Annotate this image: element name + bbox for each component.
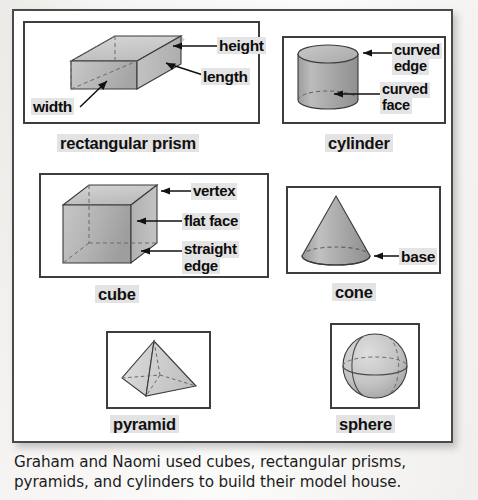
caption-paragraph-line1: Graham and Naomi used cubes, rectangular… (14, 452, 464, 472)
caption-sphere: sphere (336, 415, 395, 433)
shapes-reference-panel: height length width rectangular prism (12, 9, 453, 443)
sphere-shape (332, 325, 418, 407)
figure-box-sphere (330, 323, 420, 409)
label-straight-edge-line1: straight (182, 241, 239, 258)
pyramid-shape (108, 333, 209, 407)
label-length: length (201, 68, 250, 85)
label-curved-edge-line2: edge (392, 59, 429, 75)
label-curved-edge-line1: curved (392, 43, 442, 59)
label-width: width (31, 98, 74, 115)
label-curved-edge: curved edge (392, 43, 444, 75)
figure-box-cone: base (286, 186, 441, 274)
label-curved-face: curved face (380, 82, 438, 114)
label-straight-edge-line2: edge (182, 258, 220, 275)
label-flat-face: flat face (182, 213, 240, 230)
label-base: base (399, 248, 437, 265)
caption-paragraph: Graham and Naomi used cubes, rectangular… (14, 452, 464, 492)
caption-cone: cone (332, 283, 376, 301)
caption-paragraph-line2: pyramids, and cylinders to build their m… (14, 472, 464, 492)
caption-rectangular-prism: rectangular prism (57, 134, 199, 152)
figure-box-pyramid (106, 331, 211, 409)
label-curved-face-line2: face (380, 98, 412, 114)
label-vertex: vertex (191, 183, 237, 200)
figure-box-rectangular-prism: height length width (23, 21, 260, 124)
figure-box-cube: vertex flat face straight edge (39, 173, 269, 278)
caption-cube: cube (95, 285, 139, 303)
label-curved-face-line1: curved (380, 82, 430, 98)
caption-pyramid: pyramid (110, 415, 179, 433)
caption-cylinder: cylinder (325, 134, 393, 152)
label-height: height (217, 37, 266, 54)
label-straight-edge: straight edge (182, 241, 246, 274)
figure-box-cylinder: curved edge curved face (282, 36, 446, 124)
